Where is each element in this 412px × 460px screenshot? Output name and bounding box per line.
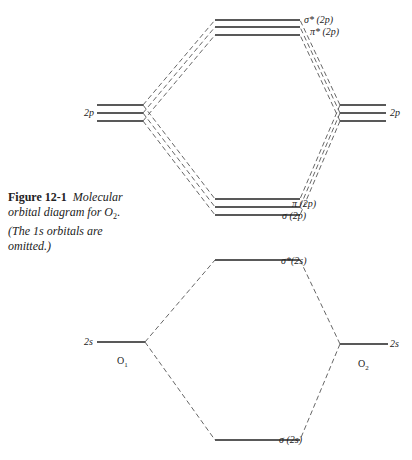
atom-o1-label: O1 [117,355,128,369]
figure-number: Figure 12-1 [8,190,67,204]
correlation-lines [143,20,340,440]
pi-star-2p-label: π* (2p) [310,27,339,37]
atom-o2-label: O2 [358,358,369,372]
sigma-star-2s-label: σ*(2s) [281,256,306,266]
pi-2p-label: π (2p) [292,199,316,209]
figure-caption: Figure 12-1 Molecular orbital diagram fo… [8,190,138,254]
right-2p-label: 2p [390,108,400,118]
sigma-2p-label: σ (2p) [282,211,306,221]
sigma-star-2p-label: σ* (2p) [304,15,333,25]
left-2s-label: 2s [84,337,93,347]
left-2p-label: 2p [84,108,94,118]
energy-levels [97,20,388,440]
right-2s-label: 2s [390,339,399,349]
sigma-2s-label: σ (2s) [279,435,302,445]
